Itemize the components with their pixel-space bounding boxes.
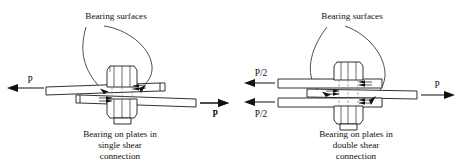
right-middle-plate	[307, 89, 417, 99]
left-diagram-single-shear	[7, 26, 229, 124]
left-force-label-left: P	[27, 75, 32, 85]
right-caption-line-1: Bearing on plates in	[319, 129, 393, 139]
right-force-arrow-right	[421, 91, 455, 99]
left-caption-line-1: Bearing on plates in	[83, 129, 157, 139]
left-caption-line-3: connection	[100, 151, 141, 161]
left-bearing-surfaces-label: Bearing surfaces	[85, 11, 147, 21]
right-force-label-bottom-left: P/2	[255, 109, 268, 119]
left-upper-plate	[46, 83, 165, 95]
right-top-plate	[278, 79, 382, 88]
right-force-arrow-top-left	[244, 79, 275, 87]
right-force-arrow-bottom-left	[244, 98, 275, 106]
middle-force-arrow	[200, 99, 229, 107]
middle-force-label: P	[212, 109, 217, 119]
engineering-figure: Bearing surfaces P P Bearing on plates i…	[0, 0, 471, 167]
right-diagram-double-shear	[244, 26, 455, 130]
right-bottom-plate	[278, 98, 382, 107]
right-force-label-right: P	[434, 80, 439, 90]
left-bolt-assembly	[107, 66, 137, 124]
right-bearing-surfaces-label: Bearing surfaces	[321, 11, 383, 21]
right-force-label-top-left: P/2	[255, 68, 268, 78]
left-force-arrow-left	[7, 84, 44, 92]
right-caption-line-2: double shear	[333, 140, 380, 150]
figure-canvas: Bearing surfaces P P Bearing on plates i…	[0, 0, 471, 167]
right-caption-line-3: connection	[336, 151, 377, 161]
left-caption-line-2: single shear	[98, 140, 142, 150]
